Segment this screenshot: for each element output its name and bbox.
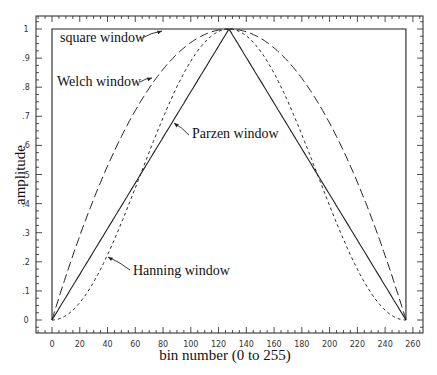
annotation-label: square window xyxy=(60,30,146,45)
x-tick-label: 220 xyxy=(350,340,365,349)
x-tick-label: 180 xyxy=(294,340,309,349)
x-tick-label: 60 xyxy=(130,340,140,349)
x-tick-label: 260 xyxy=(405,340,420,349)
x-tick-label: 20 xyxy=(75,340,85,349)
annotation-label: Parzen window xyxy=(192,126,280,141)
y-tick-label: .1 xyxy=(22,287,30,296)
y-tick-label: 0 xyxy=(23,316,28,325)
axes-box xyxy=(36,16,423,333)
annotation-label: Hanning window xyxy=(133,263,231,278)
x-tick-label: 240 xyxy=(377,340,392,349)
y-tick-label: .8 xyxy=(22,83,30,92)
annotations: square windowWelch windowParzen windowHa… xyxy=(57,30,280,278)
y-tick-label: 1 xyxy=(23,25,28,34)
y-tick-label: .2 xyxy=(22,258,30,267)
x-tick-label: 0 xyxy=(49,340,54,349)
arrowhead-icon xyxy=(147,78,152,82)
arrowhead-icon xyxy=(174,123,179,127)
y-tick-label: .3 xyxy=(22,229,30,238)
y-tick-label: .9 xyxy=(22,54,30,63)
y-tick-label: .7 xyxy=(22,112,30,121)
y-axis-label: amplitude xyxy=(12,145,28,205)
annotation-label: Welch window xyxy=(57,74,142,89)
x-axis-label: bin number (0 to 255) xyxy=(159,347,291,364)
x-tick-label: 200 xyxy=(322,340,337,349)
arrowhead-icon xyxy=(157,31,162,35)
window-functions-chart: 0204060801001201401601802002202402600.1.… xyxy=(0,0,437,375)
x-tick-label: 40 xyxy=(102,340,112,349)
